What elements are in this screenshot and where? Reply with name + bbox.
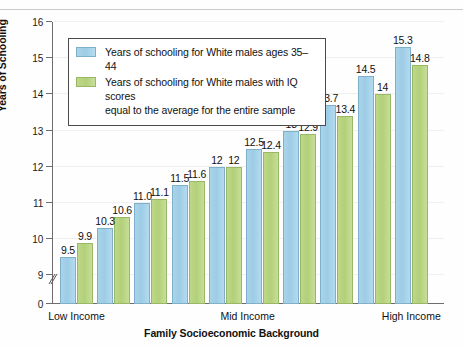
bar-blue[interactable] xyxy=(283,131,299,305)
legend-item-blue: Years of schooling for White males ages … xyxy=(76,45,318,73)
x-axis-category-label: High Income xyxy=(382,310,441,322)
bar-value-label-green: 11.1 xyxy=(150,186,169,198)
legend-swatch-green-icon xyxy=(76,77,96,87)
bar-group: 14.514 xyxy=(358,22,391,304)
y-axis-label: 10 xyxy=(19,234,43,245)
x-axis-category-label: Low Income xyxy=(48,310,105,322)
y-axis-label: 11 xyxy=(19,197,43,208)
y-axis-label: 0 xyxy=(19,299,43,310)
y-axis-title: Years of Schooling xyxy=(0,19,8,112)
bar-value-label-green: 11.6 xyxy=(187,168,206,180)
bar-blue[interactable] xyxy=(97,228,113,304)
bar-green[interactable] xyxy=(77,243,93,304)
legend-label-blue: Years of schooling for White males ages … xyxy=(105,45,318,73)
x-axis-title: Family Socioeconomic Background xyxy=(0,327,463,339)
bar-green[interactable] xyxy=(114,217,130,304)
bar-green[interactable] xyxy=(300,134,316,304)
chart-figure: 1615141312111090 9.59.910.310.611.011.11… xyxy=(0,0,463,348)
bar-blue[interactable] xyxy=(358,76,374,304)
bar-green[interactable] xyxy=(412,65,428,304)
legend-swatch-blue-icon xyxy=(76,47,96,57)
bar-value-label-blue: 12 xyxy=(211,154,222,166)
bar-green[interactable] xyxy=(189,181,205,304)
bar-green[interactable] xyxy=(151,199,167,304)
top-rule-divider xyxy=(0,9,463,10)
chart-legend: Years of schooling for White males ages … xyxy=(68,38,326,126)
bar-blue[interactable] xyxy=(172,185,188,304)
bar-blue[interactable] xyxy=(395,47,411,304)
bar-value-label-green: 13.4 xyxy=(336,103,356,115)
y-axis-label: 13 xyxy=(19,125,43,136)
bar-green[interactable] xyxy=(226,167,242,304)
bar-value-label-blue: 15.3 xyxy=(393,34,413,46)
legend-item-green: Years of schooling for White males with … xyxy=(76,75,318,117)
bar-blue[interactable] xyxy=(60,257,76,304)
bar-value-label-green: 12.4 xyxy=(261,139,281,151)
bar-value-label-blue: 14.5 xyxy=(356,63,376,75)
bar-group: 15.314.8 xyxy=(395,22,428,304)
bar-green[interactable] xyxy=(337,116,353,304)
legend-label-green-line2: equal to the average for the entire samp… xyxy=(105,104,295,116)
y-axis-label: 15 xyxy=(19,53,43,64)
bar-value-label-green: 10.6 xyxy=(112,204,132,216)
bar-value-label-green: 12 xyxy=(228,154,239,166)
bar-value-label-green: 14 xyxy=(377,81,388,93)
x-axis-category-label: Mid Income xyxy=(220,310,274,322)
bar-value-label-blue: 10.3 xyxy=(95,215,115,227)
bar-blue[interactable] xyxy=(134,203,150,304)
legend-label-green: Years of schooling for White males with … xyxy=(105,75,318,117)
bar-value-label-blue: 9.5 xyxy=(61,244,75,256)
legend-label-green-line1: Years of schooling for White males with … xyxy=(105,76,298,102)
bar-value-label-green: 9.9 xyxy=(78,230,92,242)
bar-blue[interactable] xyxy=(246,149,262,304)
bar-green[interactable] xyxy=(375,94,391,304)
bar-green[interactable] xyxy=(263,152,279,304)
y-axis-label: 14 xyxy=(19,89,43,100)
bar-blue[interactable] xyxy=(209,167,225,304)
y-axis-label: 16 xyxy=(19,17,43,28)
bar-value-label-green: 14.8 xyxy=(410,52,430,64)
bar-blue[interactable] xyxy=(320,105,336,304)
y-axis-label: 9 xyxy=(19,270,43,281)
y-axis-label: 12 xyxy=(19,161,43,172)
